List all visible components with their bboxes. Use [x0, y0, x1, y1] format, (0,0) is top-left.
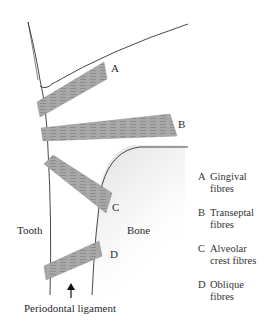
legend-line2: fibres: [210, 291, 234, 302]
legend-line1: Transeptal: [210, 207, 254, 218]
fibre-legend: A Gingivalfibres B Transeptalfibres C Al…: [198, 171, 276, 315]
legend-line2: fibres: [210, 219, 234, 230]
legend-line1: Oblique: [210, 279, 244, 290]
legend-item-d: D Obliquefibres: [198, 279, 276, 303]
legend-key: C: [198, 243, 210, 267]
legend-line1: Alveolar: [210, 243, 247, 254]
legend-item-b: B Transeptalfibres: [198, 207, 276, 231]
legend-key: D: [198, 279, 210, 303]
legend-line1: Gingival: [210, 171, 247, 182]
marker-d: D: [110, 248, 118, 260]
marker-a: A: [111, 62, 119, 74]
legend-line2: crest fibres: [210, 255, 256, 266]
tooth-outline: [28, 22, 51, 295]
bone-label: Bone: [127, 224, 150, 236]
legend-key: B: [198, 207, 210, 231]
legend-key: A: [198, 171, 210, 195]
tooth-label: Tooth: [17, 224, 43, 236]
enamel-line: [28, 22, 38, 80]
legend-item-c: C Alveolarcrest fibres: [198, 243, 276, 267]
marker-b: B: [178, 118, 185, 130]
ligament-label: Periodontal ligament: [24, 302, 116, 314]
legend-line2: fibres: [210, 183, 234, 194]
legend-item-a: A Gingivalfibres: [198, 171, 276, 195]
marker-c: C: [112, 201, 119, 213]
